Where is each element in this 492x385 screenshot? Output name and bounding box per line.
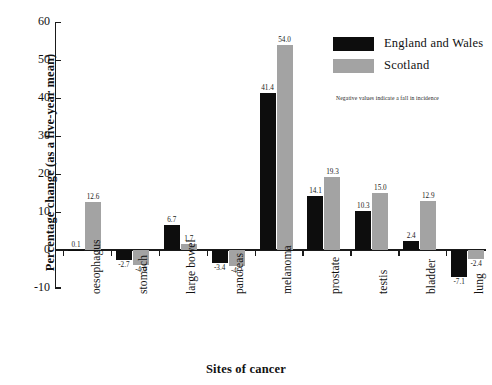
x-axis-label-testis: testis	[377, 270, 389, 294]
y-axis-tick-mark	[55, 136, 61, 137]
y-axis-line	[55, 22, 56, 288]
bar-lung-england-and-wales: -7.1	[451, 250, 467, 277]
y-axis-tick-mark	[55, 174, 61, 175]
y-axis-tick-mark	[55, 60, 61, 61]
y-axis-tick-label: -10	[20, 280, 50, 294]
bar-testis-scotland: 15.0	[372, 193, 388, 250]
x-axis-tick-mark	[398, 250, 399, 256]
x-axis-label-pancreas: pancreas	[233, 253, 245, 294]
x-axis-title: Sites of cancer	[0, 362, 492, 377]
bar-testis-england-and-wales: 10.3	[355, 211, 371, 250]
chart-legend: England and Wales Scotland	[333, 36, 483, 80]
x-axis-tick-mark	[63, 250, 64, 256]
bar-pancreas-england-and-wales: -3.4	[212, 250, 228, 263]
y-axis-tick-label: 10	[20, 204, 50, 218]
y-axis-tick-label: 30	[20, 128, 50, 142]
x-axis-tick-mark	[159, 250, 160, 256]
y-axis-tick-mark	[55, 98, 61, 99]
legend-swatch-icon	[333, 59, 374, 73]
bar-value-label: 2.4	[407, 232, 416, 240]
bar-value-label: 12.9	[422, 192, 435, 200]
legend-label: England and Wales	[384, 36, 483, 51]
legend-item-scotland: Scotland	[333, 58, 483, 73]
y-axis-tick-label: 50	[20, 52, 50, 66]
bar-melanoma-scotland: 54.0	[277, 45, 293, 250]
x-axis-label-oesophagus: oesophagus	[90, 239, 102, 294]
bar-value-label: 12.6	[87, 193, 100, 201]
x-axis-tick-mark	[111, 250, 112, 256]
bar-value-label: -3.4	[214, 264, 225, 272]
bar-oesophagus-england-and-wales: 0.1	[68, 250, 84, 251]
bar-value-label: -2.7	[118, 261, 129, 269]
bar-melanoma-england-and-wales: 41.4	[260, 93, 276, 250]
x-axis-tick-mark	[446, 250, 447, 256]
y-axis-tick-label: 20	[20, 166, 50, 180]
y-axis-tick-label: 0	[20, 242, 50, 256]
bar-value-label: 14.1	[309, 187, 322, 195]
x-axis-label-prostate: prostate	[329, 257, 341, 294]
bar-value-label: 41.4	[261, 84, 274, 92]
x-axis-tick-mark	[207, 250, 208, 256]
x-axis-label-stomach: stomach	[137, 255, 149, 294]
bar-value-label: -2.4	[470, 260, 481, 268]
bar-value-label: 10.3	[357, 202, 370, 210]
bar-value-label: 6.7	[167, 216, 176, 224]
bar-large-bowel-england-and-wales: 6.7	[164, 225, 180, 250]
y-axis-tick-label: 60	[20, 14, 50, 28]
y-axis-tick-mark	[55, 288, 61, 289]
legend-label: Scotland	[384, 58, 429, 73]
x-axis-label-large-bowel: large bowel	[185, 239, 197, 294]
bar-value-label: 0.1	[72, 241, 81, 249]
legend-item-england-and-wales: England and Wales	[333, 36, 483, 51]
y-axis-tick-mark	[55, 22, 61, 23]
bar-prostate-scotland: 19.3	[324, 177, 340, 250]
bar-value-label: 19.3	[326, 168, 339, 176]
x-axis-label-lung: lung	[473, 273, 485, 294]
bar-value-label: -7.1	[453, 278, 464, 286]
bar-chart: Percentage change (as a five-year mean) …	[0, 0, 492, 385]
bar-value-label: 15.0	[374, 184, 387, 192]
bar-value-label: 54.0	[278, 36, 291, 44]
y-axis-tick-mark	[55, 212, 61, 213]
x-axis-label-melanoma: melanoma	[281, 245, 293, 294]
x-axis-tick-mark	[255, 250, 256, 256]
bar-lung-scotland: -2.4	[468, 250, 484, 259]
bar-bladder-scotland: 12.9	[420, 201, 436, 250]
x-axis-tick-mark	[350, 250, 351, 256]
bar-bladder-england-and-wales: 2.4	[403, 241, 419, 250]
bar-stomach-england-and-wales: -2.7	[116, 250, 132, 260]
y-axis-tick-label: 40	[20, 90, 50, 104]
x-axis-tick-mark	[302, 250, 303, 256]
chart-annotation: Negative values indicate a fall in incid…	[336, 95, 439, 101]
bar-prostate-england-and-wales: 14.1	[307, 196, 323, 250]
legend-swatch-icon	[333, 37, 374, 51]
x-axis-label-bladder: bladder	[425, 259, 437, 294]
